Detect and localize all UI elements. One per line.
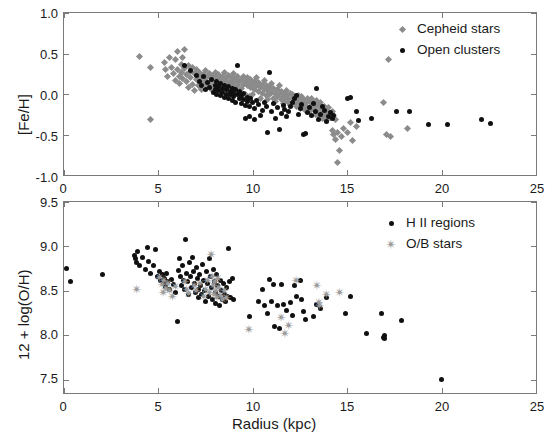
data-point xyxy=(216,88,221,93)
data-point xyxy=(209,77,214,82)
data-point xyxy=(245,79,252,86)
y-tick-mark xyxy=(531,94,536,95)
data-point xyxy=(279,94,286,101)
data-point xyxy=(287,90,294,97)
data-point xyxy=(186,292,191,297)
data-point xyxy=(343,311,348,316)
data-point xyxy=(224,87,229,92)
data-point xyxy=(211,292,222,303)
data-point xyxy=(264,87,271,94)
data-point xyxy=(230,70,237,77)
x-tick-label-top-3: 15 xyxy=(332,182,362,195)
data-point xyxy=(199,83,204,88)
y-tick-mark xyxy=(64,246,69,247)
data-point xyxy=(279,111,284,116)
data-point xyxy=(132,253,137,258)
data-point xyxy=(318,112,323,117)
data-point xyxy=(161,59,168,66)
data-point xyxy=(303,131,308,136)
data-point xyxy=(210,297,215,302)
data-point xyxy=(217,294,228,305)
legend-oh: H II regions O/B stars xyxy=(380,212,475,254)
data-point xyxy=(344,129,351,136)
y-tick-mark xyxy=(64,335,69,336)
data-point xyxy=(206,249,217,260)
data-point xyxy=(202,288,207,293)
data-point xyxy=(206,79,213,86)
data-point xyxy=(181,278,186,283)
x-tick-mark xyxy=(347,170,348,175)
data-point xyxy=(207,271,218,282)
data-point xyxy=(325,110,332,117)
data-point xyxy=(199,292,204,297)
data-point xyxy=(264,104,269,109)
data-point xyxy=(205,281,210,286)
data-point xyxy=(227,89,234,96)
data-point xyxy=(212,279,217,284)
data-point xyxy=(171,282,176,287)
data-point xyxy=(205,80,210,85)
x-tick-label-top-1: 5 xyxy=(143,182,173,195)
data-point xyxy=(143,267,148,272)
data-point xyxy=(193,66,200,73)
data-point xyxy=(208,280,219,291)
data-point xyxy=(201,74,206,79)
data-point xyxy=(273,116,278,121)
data-point xyxy=(228,295,233,300)
data-point xyxy=(153,247,158,252)
data-point xyxy=(193,290,198,295)
data-point xyxy=(210,276,221,287)
data-point xyxy=(349,137,356,144)
x-tick-mark xyxy=(158,170,159,175)
data-point xyxy=(223,86,230,93)
x-tick-mark xyxy=(442,170,443,175)
data-point xyxy=(261,77,268,84)
data-point xyxy=(202,77,209,84)
data-point xyxy=(318,306,323,311)
data-point xyxy=(340,124,347,131)
data-point xyxy=(170,70,177,77)
y-tick-label-bottom-1: 9.0 xyxy=(14,240,58,253)
data-point xyxy=(172,77,179,84)
data-point xyxy=(274,93,281,100)
legend-label-open-clusters: Open clusters xyxy=(413,42,500,57)
data-point xyxy=(162,278,173,289)
data-point xyxy=(292,283,297,288)
data-point xyxy=(211,77,218,84)
data-point xyxy=(336,147,343,154)
data-point xyxy=(244,74,251,81)
data-point xyxy=(211,90,216,95)
data-point xyxy=(167,287,172,292)
data-point xyxy=(284,114,289,119)
data-point xyxy=(176,73,183,80)
data-point xyxy=(347,119,354,126)
data-point xyxy=(249,81,256,88)
data-point xyxy=(244,82,251,89)
data-point xyxy=(182,63,187,68)
data-point xyxy=(195,276,200,281)
data-point xyxy=(221,281,226,286)
y-tick-mark xyxy=(64,291,69,292)
legend-label-ob-stars: O/B stars xyxy=(402,236,462,251)
data-point xyxy=(241,97,246,102)
y-tick-mark xyxy=(64,380,69,381)
y-tick-mark xyxy=(531,246,536,247)
data-point xyxy=(266,91,273,98)
data-point xyxy=(262,82,269,89)
data-point xyxy=(185,279,190,284)
data-point xyxy=(293,97,300,104)
data-point xyxy=(198,86,205,93)
data-point xyxy=(191,70,198,77)
data-point xyxy=(407,109,412,114)
data-point xyxy=(248,96,253,101)
data-point xyxy=(222,83,227,88)
data-point xyxy=(233,87,238,92)
data-point xyxy=(191,87,198,94)
y-tick-mark xyxy=(64,135,69,136)
x-tick-label-bottom-1: 5 xyxy=(143,400,173,413)
data-point xyxy=(204,83,211,90)
data-point xyxy=(200,284,211,295)
data-point xyxy=(356,118,361,123)
data-point xyxy=(235,63,240,68)
data-point xyxy=(303,317,308,322)
